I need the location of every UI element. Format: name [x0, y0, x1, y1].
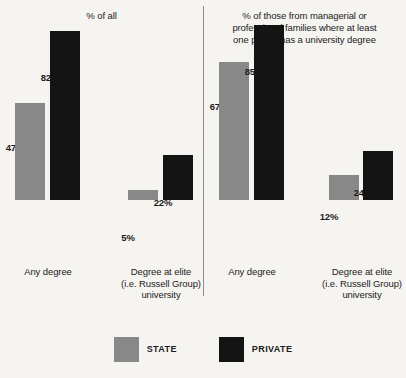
legend-label-private: PRIVATE: [252, 344, 292, 354]
panel-percent-managerial-professional: % of those from managerial or profession…: [203, 0, 406, 320]
category-label-line1: Any degree: [228, 266, 276, 277]
category-label-line1: Degree at elite: [131, 266, 191, 277]
panel-right-title-line1: % of those from managerial or: [242, 10, 366, 21]
category-label-left-any-degree: Any degree: [0, 266, 108, 278]
category-label-right-any-degree: Any degree: [192, 266, 312, 278]
bar-left-any-private: [50, 31, 80, 200]
bar-value-right-elite-state: 12%: [309, 211, 349, 222]
legend-label-state: STATE: [147, 344, 177, 354]
bar-right-elite-private: [363, 151, 393, 200]
panel-percent-of-all: % of all 47% 82% Any degree 5% 22% Degre…: [0, 0, 203, 320]
category-label-line2: (i.e. Russell Group): [322, 278, 402, 289]
legend-swatch-private-icon: [219, 337, 244, 362]
panel-divider: [203, 6, 204, 296]
category-label-line2: (i.e. Russell Group): [121, 278, 201, 289]
category-label-line1: Degree at elite: [332, 266, 392, 277]
category-label-line1: Any degree: [24, 266, 72, 277]
legend-item-state: STATE: [114, 337, 177, 362]
bar-value-left-elite-state: 5%: [108, 232, 148, 243]
legend-item-private: PRIVATE: [219, 337, 292, 362]
panel-right-title: % of those from managerial or profession…: [211, 10, 398, 46]
category-label-right-elite-degree: Degree at elite (i.e. Russell Group) uni…: [302, 266, 406, 301]
bar-right-any-private: [254, 25, 284, 200]
category-label-line3: university: [141, 289, 180, 300]
legend-swatch-state-icon: [114, 337, 139, 362]
category-label-line3: university: [342, 289, 381, 300]
bar-left-elite-private: [163, 155, 193, 200]
chart-legend: STATE PRIVATE: [0, 334, 406, 364]
bar-right-any-state: [219, 62, 249, 200]
bar-left-any-state: [15, 103, 45, 200]
panel-left-title: % of all: [20, 10, 183, 22]
bar-chart-figure: % of all 47% 82% Any degree 5% 22% Degre…: [0, 0, 406, 378]
